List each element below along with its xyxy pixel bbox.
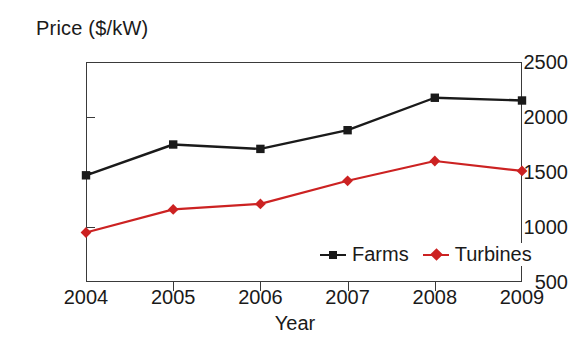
legend-label-farms: Farms — [352, 243, 409, 266]
legend-item-turbines[interactable]: Turbines — [423, 243, 532, 266]
y-tick-label: 2500 — [502, 51, 568, 74]
x-tick-mark — [260, 282, 261, 291]
x-tick-label: 2009 — [477, 286, 567, 309]
y-tick-mark — [86, 172, 95, 173]
x-tick-mark — [173, 282, 174, 291]
line-chart: Price ($/kW) 5001000150020002500 2004200… — [0, 0, 568, 346]
x-tick-label: 2004 — [41, 286, 131, 309]
legend-label-turbines: Turbines — [455, 243, 532, 266]
x-tick-mark — [348, 282, 349, 291]
x-tick-mark — [435, 282, 436, 291]
y-tick-label: 2000 — [502, 106, 568, 129]
y-tick-label: 1000 — [502, 216, 568, 239]
y-tick-label: 1500 — [502, 161, 568, 184]
turbines-marker-icon — [423, 248, 449, 262]
legend-item-farms[interactable]: Farms — [320, 243, 409, 266]
legend: Farms Turbines — [318, 243, 534, 266]
y-axis-title: Price ($/kW) — [36, 17, 148, 40]
x-axis-title: Year — [0, 312, 568, 335]
y-tick-mark — [86, 117, 95, 118]
y-tick-mark — [86, 227, 95, 228]
farms-marker-icon — [320, 248, 346, 262]
